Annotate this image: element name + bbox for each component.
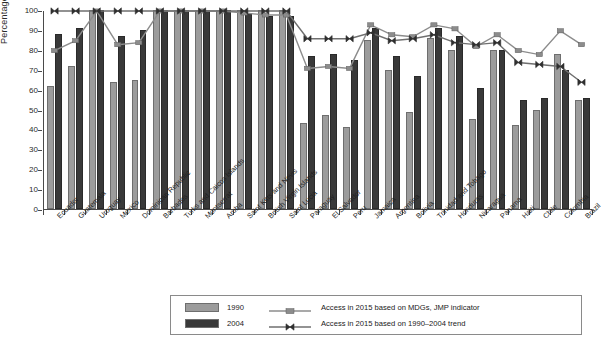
line-layer [44, 11, 592, 209]
marker-square [115, 43, 121, 47]
plot-area [43, 11, 592, 210]
y-axis-tick-label: 100 [25, 7, 38, 15]
marker-square [136, 41, 142, 45]
marker-square [494, 33, 500, 37]
marker-square [452, 27, 458, 31]
marker-bowtie [494, 39, 501, 45]
y-axis-tick-mark [38, 111, 42, 112]
marker-bowtie [557, 63, 564, 69]
y-axis-tick-label: 10 [29, 186, 38, 194]
marker-bowtie [388, 38, 395, 44]
marker-square [262, 13, 268, 17]
marker-square [73, 39, 79, 43]
y-axis-tick-mark [38, 91, 42, 92]
y-axis-tick-label: 50 [29, 107, 38, 115]
marker-square [368, 23, 374, 27]
y-axis-tick-mark [38, 51, 42, 52]
marker-bowtie [430, 32, 437, 38]
marker-bowtie [367, 30, 374, 36]
legend-line-key [267, 318, 313, 328]
y-axis-tick-mark [38, 71, 42, 72]
marker-bowtie [515, 59, 522, 65]
legend-swatch [185, 303, 219, 312]
y-axis-tick-label: 60 [29, 87, 38, 95]
marker-bowtie [536, 61, 543, 67]
y-axis-tick-mark [38, 150, 42, 151]
line-square [55, 11, 582, 68]
y-axis-tick-label: 40 [29, 126, 38, 134]
y-axis-tick-mark [38, 130, 42, 131]
line-bowtie [55, 11, 582, 82]
marker-square [389, 33, 395, 37]
marker-bowtie [304, 36, 311, 42]
marker-square [431, 23, 437, 27]
marker-square [325, 64, 331, 68]
legend-label: 1990 [227, 303, 244, 312]
marker-square [557, 29, 563, 33]
legend-label: 2004 [227, 319, 244, 328]
marker-square [304, 66, 310, 70]
marker-bowtie [578, 79, 585, 85]
marker-square [536, 52, 542, 56]
legend-label: Access in 2015 based on 1990–2004 trend [321, 319, 465, 328]
legend-swatch [185, 319, 219, 328]
y-axis-title: Percentage [0, 0, 9, 80]
legend-line-key [267, 302, 313, 312]
marker-bowtie [325, 36, 332, 42]
marker-bowtie [451, 39, 458, 45]
y-axis-tick-mark [38, 190, 42, 191]
y-axis-tick-label: 20 [29, 166, 38, 174]
marker-bowtie [135, 8, 142, 14]
y-axis-tick-mark [38, 31, 42, 32]
legend-row: 2004Access in 2015 based on 1990–2004 tr… [171, 317, 581, 335]
y-axis-tick-label: 90 [29, 27, 38, 35]
y-axis-tick-mark [38, 11, 42, 12]
y-axis-tick-label: 70 [29, 67, 38, 75]
marker-square [347, 66, 353, 70]
marker-bowtie [72, 8, 79, 14]
marker-square [515, 49, 521, 53]
y-axis-tick-label: 80 [29, 47, 38, 55]
marker-square [578, 43, 584, 47]
marker-square [51, 49, 57, 53]
x-axis-tick-labels: EcuadorGuatemalaUruguayMexicoDominican R… [0, 214, 596, 294]
legend-label: Access in 2015 based on MDGs, JMP indica… [321, 303, 480, 312]
chart-legend: 1990Access in 2015 based on MDGs, JMP in… [170, 295, 582, 335]
marker-bowtie [114, 8, 121, 14]
y-axis-tick-label: 30 [29, 146, 38, 154]
marker-bowtie [346, 36, 353, 42]
y-axis-tick-mark [38, 210, 42, 211]
marker-bowtie [51, 8, 58, 14]
y-axis-tick-mark [38, 170, 42, 171]
